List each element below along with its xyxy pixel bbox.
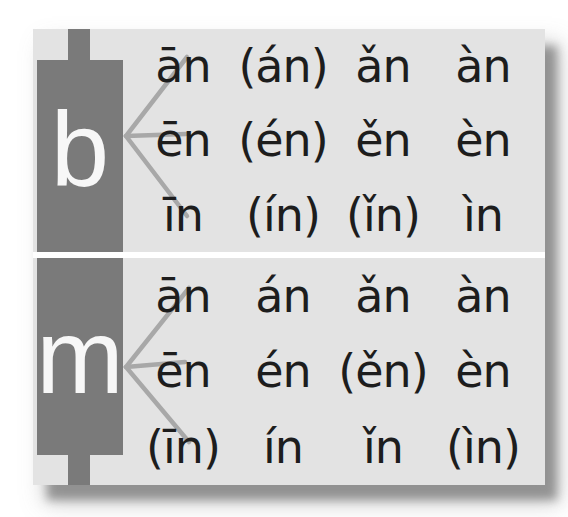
pinyin-cell: èn [433,117,533,163]
pinyin-cell: ēn [133,117,233,163]
finals-row: ān (án) ǎn àn [133,29,533,103]
pinyin-cell: ìn [433,192,533,238]
pinyin-cell: ēn [133,348,233,394]
pinyin-cell: ǎn [333,43,433,89]
pinyin-cell: (ǐn) [333,192,433,238]
finals-row: (īn) ín ǐn (ìn) [133,409,533,485]
pinyin-cell: (án) [233,43,333,89]
pinyin-cell: án [233,273,333,319]
finals-row: ān án ǎn àn [133,258,533,334]
finals-row: ēn (én) ěn èn [133,103,533,177]
finals-rows-m: ān án ǎn àn ēn én (ěn) èn (īn) ín ǐn (ìn… [133,258,533,485]
initial-letter-b: b [51,97,109,202]
pinyin-cell: én [233,348,333,394]
block-tab-bottom [68,455,90,485]
pinyin-cell: èn [433,348,533,394]
pinyin-cell: ín [233,424,333,470]
pinyin-cell: ǐn [333,424,433,470]
pinyin-cell: (ěn) [333,348,433,394]
pinyin-cell: ěn [333,117,433,163]
scanned-pinyin-chart-page: b ān (án) ǎn àn ēn (én) ěn èn [0,0,568,517]
pinyin-cell: ǎn [333,273,433,319]
pinyin-cell: (ìn) [433,424,533,470]
block-tab-top [68,29,90,60]
initial-block-b: b [37,60,123,252]
pinyin-chart-panel: b ān (án) ǎn àn ēn (én) ěn èn [33,29,545,485]
pinyin-cell: àn [433,43,533,89]
section-initial-m: m ān án ǎn àn ēn én (ěn) èn [33,258,545,485]
pinyin-cell: (én) [233,117,333,163]
finals-rows-b: ān (án) ǎn àn ēn (én) ěn èn īn (ín) (ǐn)… [133,29,533,252]
initial-block-m: m [37,258,123,455]
pinyin-cell: (ín) [233,192,333,238]
pinyin-cell: ān [133,43,233,89]
initial-letter-m: m [36,304,123,409]
pinyin-cell: īn [133,192,233,238]
pinyin-cell: ān [133,273,233,319]
pinyin-cell: àn [433,273,533,319]
finals-row: ēn én (ěn) èn [133,334,533,410]
section-initial-b: b ān (án) ǎn àn ēn (én) ěn èn [33,29,545,252]
pinyin-cell: (īn) [133,424,233,470]
finals-row: īn (ín) (ǐn) ìn [133,178,533,252]
